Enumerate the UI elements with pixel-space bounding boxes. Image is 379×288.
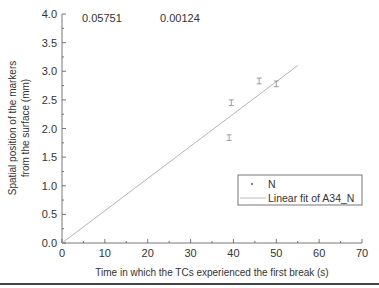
x-tick-label: 30 (184, 247, 196, 259)
data-point (257, 78, 262, 84)
annotation-error: 0.00124 (160, 12, 200, 24)
plot-area (62, 66, 298, 243)
data-point (227, 135, 232, 141)
data-point (229, 100, 234, 106)
y-tick-label: 1.5 (42, 151, 57, 163)
chart: 0102030405060700.00.51.01.52.02.53.03.54… (0, 0, 379, 288)
legend: N Linear fit of A34_N (238, 175, 362, 205)
y-tick-label: 1.0 (42, 180, 57, 192)
x-tick-label: 50 (270, 247, 282, 259)
legend-marker-n (251, 183, 253, 185)
x-tick-label: 0 (59, 247, 65, 259)
y-tick-label: 2.5 (42, 94, 57, 106)
y-axis-title-line2: from the surface (mm) (20, 79, 31, 177)
data-point (274, 81, 279, 87)
legend-label-fit: Linear fit of A34_N (268, 192, 354, 204)
x-tick-label: 10 (99, 247, 111, 259)
legend-label-n: N (268, 178, 276, 190)
y-axis-title-line1: Spatial position of the markers (7, 61, 18, 196)
y-tick-label: 3.0 (42, 65, 57, 77)
x-tick-label: 60 (313, 247, 325, 259)
y-tick-label: 0.0 (42, 237, 57, 249)
x-axis-title: Time in which the TCs experienced the fi… (95, 267, 328, 278)
linear-fit-line (62, 66, 298, 243)
annotation-slope: 0.05751 (82, 12, 122, 24)
y-tick-label: 4.0 (42, 8, 57, 20)
x-tick-label: 20 (142, 247, 154, 259)
y-tick-label: 2.0 (42, 123, 57, 135)
y-tick-label: 0.5 (42, 208, 57, 220)
x-tick-label: 70 (356, 247, 368, 259)
x-tick-label: 40 (227, 247, 239, 259)
y-tick-label: 3.5 (42, 37, 57, 49)
